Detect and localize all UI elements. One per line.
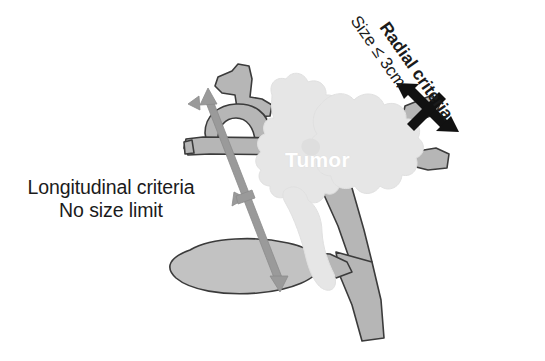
longitudinal-arrow-head-upper (200, 88, 217, 105)
longitudinal-arrow-upper-barb (188, 96, 200, 110)
longitudinal-criteria-line-1: Longitudinal criteria (27, 176, 194, 198)
gallbladder (170, 239, 320, 294)
figure-root: Longitudinal criteria No size limit Radi… (0, 0, 545, 361)
duct-left-nub (184, 140, 194, 154)
longitudinal-criteria-label: Longitudinal criteria No size limit (16, 176, 206, 222)
longitudinal-criteria-line-2: No size limit (16, 199, 206, 222)
